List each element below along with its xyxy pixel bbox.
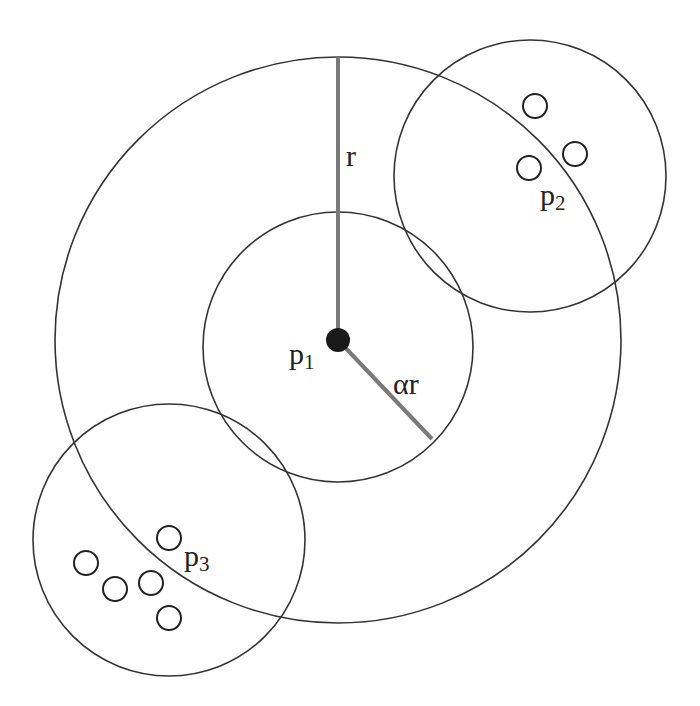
data-point (74, 551, 98, 575)
label-p1: p1 (289, 337, 315, 374)
cluster-p2-points (517, 94, 587, 180)
label-p1-main: p (289, 337, 304, 370)
label-r: r (346, 139, 356, 172)
label-alpha-r: αr (393, 367, 419, 400)
data-point (139, 571, 163, 595)
label-p3: p3 (184, 539, 210, 576)
label-p2: p2 (540, 178, 566, 215)
data-point (517, 156, 541, 180)
data-point (563, 142, 587, 166)
diagram-canvas: r p1 αr p2 p3 (0, 0, 700, 706)
label-p3-sub: 3 (199, 552, 210, 576)
data-point (157, 606, 181, 630)
cluster-p3-points (74, 526, 181, 630)
label-p1-sub: 1 (304, 350, 315, 374)
data-point (523, 94, 547, 118)
data-point (157, 526, 181, 550)
label-p2-main: p (540, 178, 555, 211)
center-point-p1 (326, 328, 350, 352)
data-point (103, 577, 127, 601)
label-p2-sub: 2 (555, 191, 566, 215)
label-p3-main: p (184, 539, 199, 572)
